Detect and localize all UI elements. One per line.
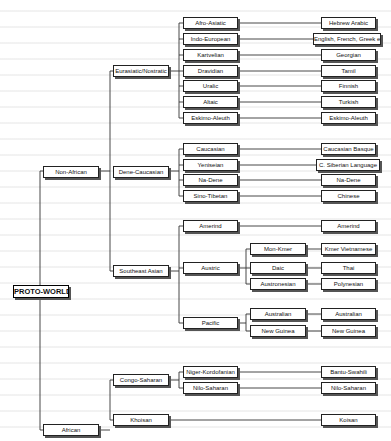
- node-na-dene-lang: Na-Dene: [321, 174, 376, 186]
- proto-world-root-node: PROTO-WORLD: [13, 285, 69, 298]
- node-altaic: Altaic: [183, 96, 238, 108]
- node-caucasian: Caucasian: [183, 143, 238, 155]
- node-niger-kordofanian: Niger-Kordofanian: [183, 366, 238, 378]
- node-yeniseian: Yeniseian: [183, 159, 238, 171]
- node-new-guinea: New Guinea: [250, 325, 306, 337]
- node-na-dene: Na-Dene: [183, 174, 238, 186]
- node-amerind-lang: Amerind: [321, 220, 376, 232]
- node-daic: Daic: [250, 262, 306, 274]
- node-pacific: Pacific: [183, 317, 238, 329]
- node-caucasian-basque: Caucasian Basque: [321, 143, 376, 155]
- node-kartvelian: Kartvelian: [183, 49, 238, 61]
- node-dravidian: Dravidian: [183, 65, 238, 77]
- node-tamil: Tamil: [321, 65, 376, 77]
- node-georgian: Georgian: [321, 49, 376, 61]
- node-african: African: [43, 424, 99, 436]
- node-turkish: Turkish: [321, 96, 376, 108]
- node-koisan: Koisan: [321, 414, 376, 426]
- node-austronesian: Austronesian: [250, 278, 306, 290]
- node-uralic: Uralic: [183, 80, 238, 92]
- node-nilo-saharan: Nilo-Saharan: [183, 382, 238, 394]
- node-sino-tibetan: Sino-Tibetan: [183, 190, 238, 202]
- node-chinese: Chinese: [321, 190, 376, 202]
- node-nilo-saharan-lang: Nilo-Saharan: [321, 382, 376, 394]
- node-southeast-asian: Southeast Asian: [113, 265, 169, 277]
- node-thai: Thai: [321, 262, 376, 274]
- node-english-french-greek: English, French, Greek etc: [313, 33, 381, 45]
- node-eurasiatic: Eurasiatic/Nostratic: [113, 65, 169, 77]
- node-kmer-vietnamese: Kmer Vietnamese: [321, 243, 376, 255]
- node-hebrew-arabic: Hebrew Arabic: [321, 17, 376, 29]
- node-austric: Austric: [183, 262, 238, 274]
- node-new-guinea-lang: New Guinea: [321, 325, 376, 337]
- node-eskimo-aleuth-lang: Eskimo-Aleuth: [321, 112, 376, 124]
- node-afro-asiatic: Afro-Asiatic: [183, 17, 238, 29]
- node-polynesian: Polynesian: [321, 278, 376, 290]
- node-amerind: Amerind: [183, 220, 238, 232]
- node-non-african: Non-African: [43, 166, 99, 178]
- node-c-siberian: C. Siberian Language: [316, 159, 380, 171]
- node-eskimo-aleuth: Eskimo-Aleuth: [183, 112, 238, 124]
- node-mon-kmer: Mon-Kmer: [250, 243, 306, 255]
- node-indo-european: Indo-European: [183, 33, 238, 45]
- node-australian-lang: Australian: [321, 308, 376, 320]
- node-finnish: Finnish: [321, 80, 376, 92]
- node-congo-saharan: Congo-Saharan: [113, 374, 169, 386]
- node-dene-caucasian: Dene-Caucasian: [113, 166, 169, 178]
- node-bantu-swahili: Bantu-Swahili: [321, 366, 376, 378]
- node-khoisan-group: Khoisan: [113, 414, 169, 426]
- node-australian: Australian: [250, 308, 306, 320]
